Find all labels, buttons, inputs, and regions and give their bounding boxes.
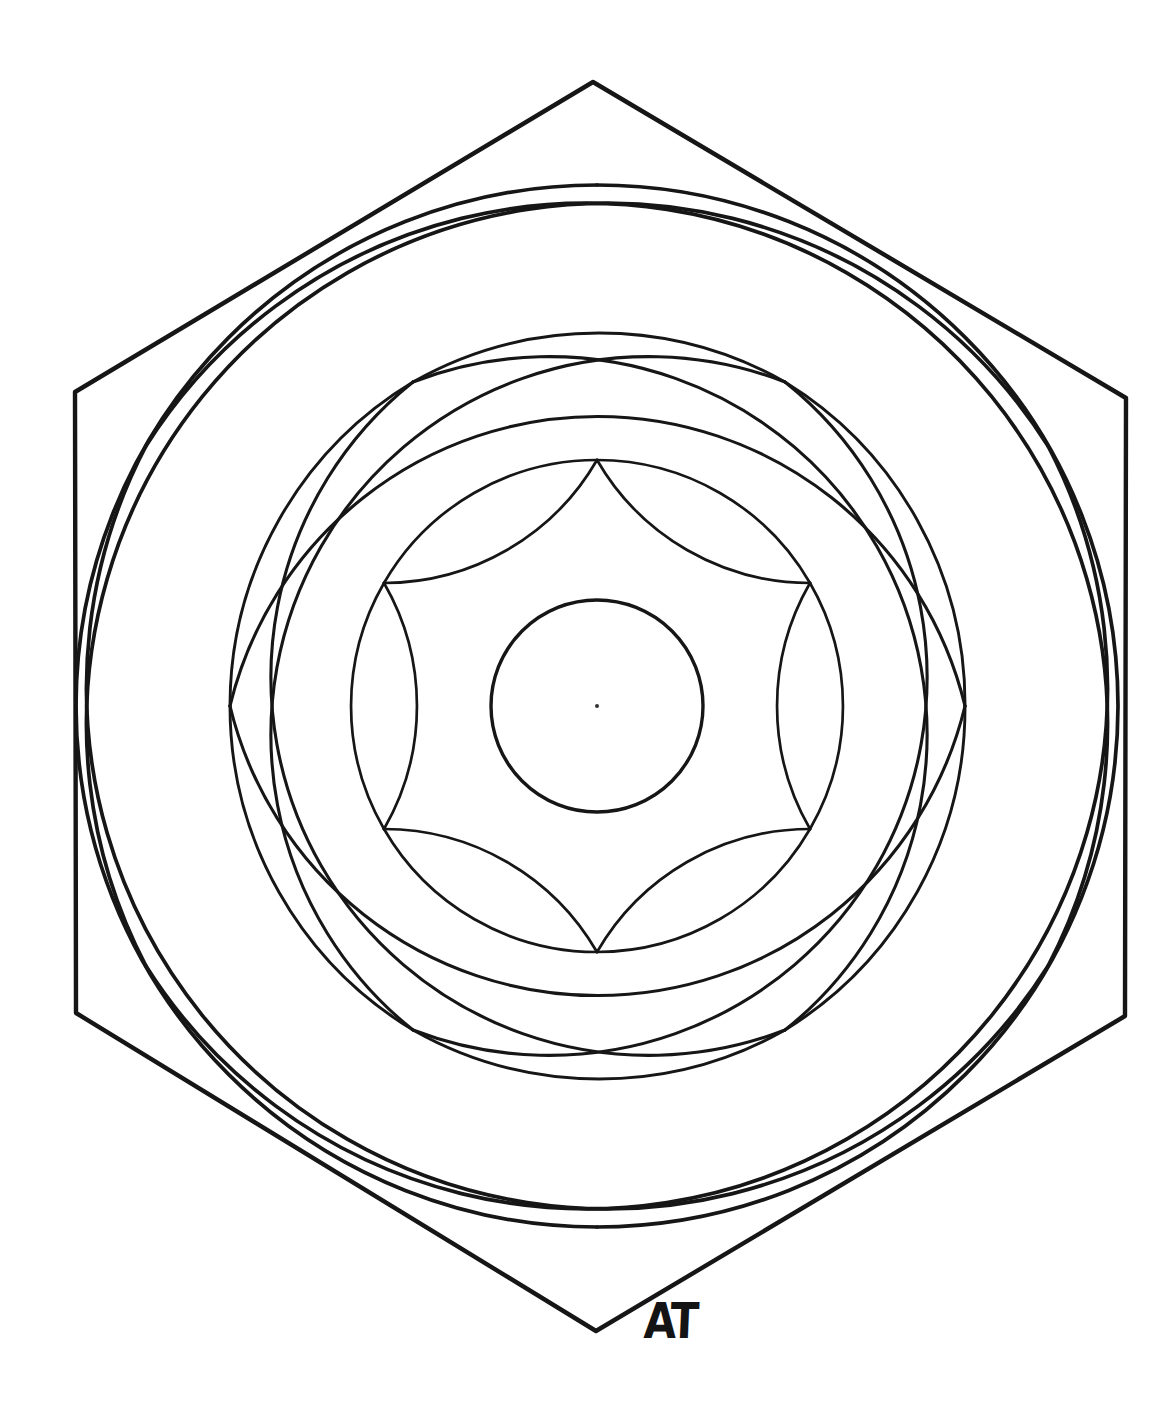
mandala-svg	[0, 0, 1149, 1417]
inner-petal-5b	[384, 583, 417, 829]
inner-petal-2a	[810, 583, 843, 829]
ring-arc-4	[413, 1030, 785, 1079]
inner-petal-5a	[351, 583, 384, 829]
inner-petal-6a	[384, 460, 597, 583]
large-petal-axis120-b	[86, 446, 1048, 1209]
inner-petal-3b	[597, 829, 810, 952]
inner-petal-6b	[384, 460, 597, 583]
outer-hexagon	[75, 82, 1126, 1331]
inner-petal-2b	[777, 583, 810, 829]
medium-petal-axis120-b	[271, 357, 785, 1030]
inner-petal-4a	[384, 829, 597, 952]
medium-petal-axis60-b	[271, 382, 785, 1055]
inner-petal-1a	[597, 460, 810, 583]
compass-center-dot	[595, 704, 599, 708]
inner-petal-1b	[597, 460, 810, 583]
ring-arc-1	[413, 333, 785, 382]
large-petal-axis60-a	[86, 203, 1048, 966]
drawing-canvas: AT	[0, 0, 1149, 1417]
inner-petal-3a	[597, 829, 810, 952]
inner-petal-4b	[384, 829, 597, 952]
